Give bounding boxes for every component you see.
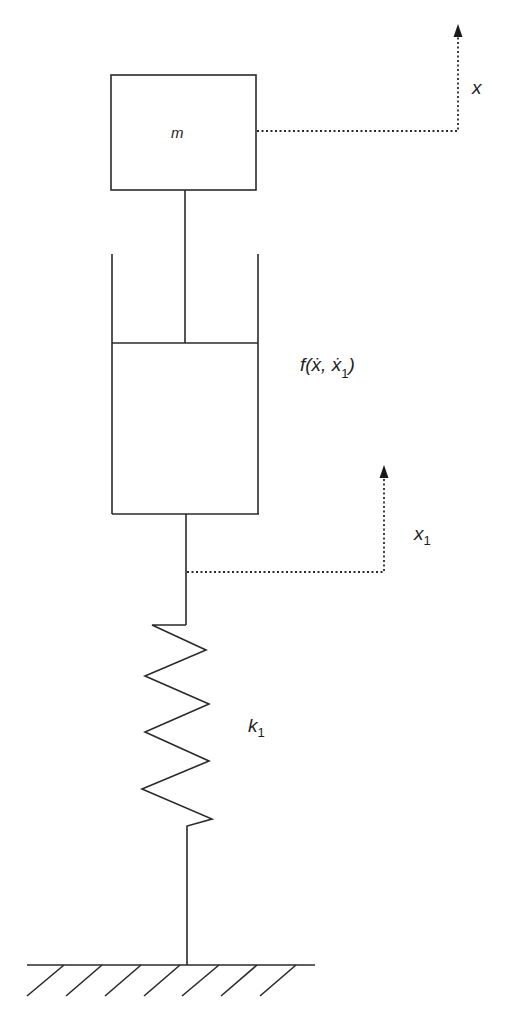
arrow-up-icon bbox=[454, 24, 463, 37]
mass-label: m bbox=[171, 124, 184, 141]
displacement-x-label: x bbox=[471, 77, 483, 98]
displacement-x-indicator: x bbox=[257, 24, 483, 131]
mass-damper-spring-diagram: m x f(ẋ, ẋ1) x1 k1 bbox=[0, 0, 529, 1032]
spring-label: k1 bbox=[248, 715, 265, 740]
displacement-x1-label: x1 bbox=[413, 523, 431, 548]
damper-label: f(ẋ, ẋ1) bbox=[300, 354, 355, 381]
arrow-up-icon bbox=[380, 465, 389, 478]
damper: f(ẋ, ẋ1) bbox=[112, 254, 355, 514]
displacement-x1-indicator: x1 bbox=[187, 465, 431, 572]
spring: k1 bbox=[142, 625, 265, 965]
mass-block: m bbox=[111, 75, 256, 190]
ground bbox=[27, 965, 315, 996]
